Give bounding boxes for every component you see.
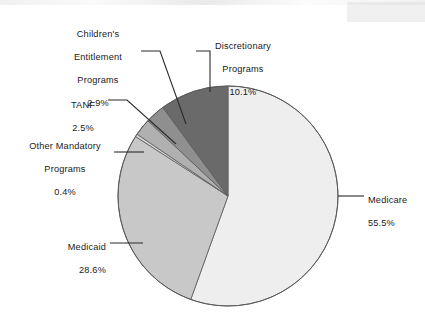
slice-label-other-mandatory-line2: Programs <box>16 164 114 175</box>
slice-label-other-mandatory: Other Mandatory Programs 0.4% <box>16 130 114 210</box>
slice-label-medicaid: Medicaid 28.6% <box>46 231 106 288</box>
slice-label-childrens-entitlement-line3: Programs <box>56 75 140 86</box>
slice-label-childrens-entitlement-line2: Entitlement <box>56 52 140 63</box>
slice-value-medicare: 55.5% <box>368 218 424 229</box>
slice-value-discretionary: 10.1% <box>200 87 286 98</box>
pie-slices-group <box>118 86 338 306</box>
slice-label-discretionary-line1: Discretionary <box>200 41 286 52</box>
pie-chart-page: Children's Entitlement Programs 2.9% TAN… <box>0 0 425 324</box>
slice-value-medicaid: 28.6% <box>46 265 106 276</box>
slice-label-discretionary-line2: Programs <box>200 64 286 75</box>
slice-label-discretionary: Discretionary Programs 10.1% <box>200 30 286 110</box>
slice-label-other-mandatory-line1: Other Mandatory <box>16 141 114 152</box>
slice-label-medicaid-line1: Medicaid <box>46 242 106 253</box>
slice-label-medicare-line1: Medicare <box>368 195 424 206</box>
slice-label-medicare: Medicare 55.5% <box>368 184 424 241</box>
slice-label-tanf-line1: TANF <box>58 100 108 111</box>
slice-label-childrens-entitlement-line1: Children's <box>56 29 140 40</box>
slice-value-other-mandatory: 0.4% <box>16 187 114 198</box>
